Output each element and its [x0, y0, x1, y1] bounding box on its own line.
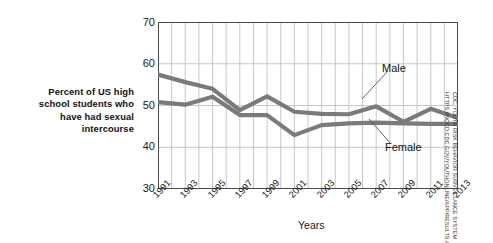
y-axis-caption-line: intercourse [6, 123, 134, 135]
series-label-male: Male [382, 62, 406, 74]
source-credit-line-1: CDC, YOUTH RISK BEHAVIOR SURVEILLANCE SY… [451, 92, 459, 243]
y-axis-caption-line: have had sexual [6, 111, 134, 123]
plot-area [158, 22, 458, 189]
y-axis-caption-line: Percent of US high [6, 86, 134, 98]
y-tick-label-70: 70 [133, 17, 155, 28]
chart-figure: Percent of US high school students who h… [0, 0, 493, 243]
chart-canvas [158, 22, 458, 189]
source-credit: CDC, YOUTH RISK BEHAVIOR SURVEILLANCE SY… [425, 0, 459, 243]
x-axis-title: Years [298, 219, 324, 231]
y-tick-label-60: 60 [133, 58, 155, 69]
source-credit-line-2: HTTPS://NCCD.CDC.GOV/YOUTHONLINE/APP/RES… [442, 92, 450, 243]
male-leader-line [362, 71, 388, 99]
y-axis-caption-line: school students who [6, 98, 134, 110]
y-tick-label-40: 40 [133, 141, 155, 152]
y-tick-label-50: 50 [133, 100, 155, 111]
series-label-female: Female [385, 141, 422, 153]
y-axis-caption: Percent of US high school students who h… [6, 86, 134, 136]
